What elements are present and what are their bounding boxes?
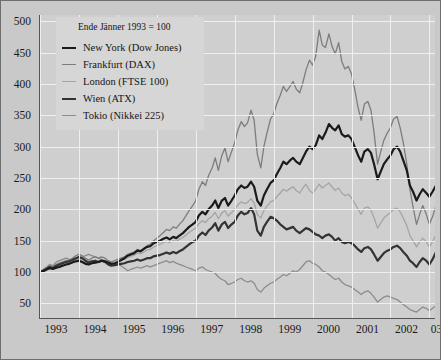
legend-item: New York (Dow Jones) bbox=[62, 39, 198, 56]
x-tick-label: 2001 bbox=[356, 323, 379, 335]
y-tick-label: 200 bbox=[14, 203, 31, 215]
y-gridline bbox=[40, 147, 435, 148]
legend: Ende Jänner 1993 = 100 New York (Dow Jon… bbox=[56, 17, 204, 130]
legend-label: London (FTSE 100) bbox=[83, 76, 168, 87]
legend-label: New York (Dow Jones) bbox=[83, 42, 182, 53]
legend-entries: New York (Dow Jones)Frankfurt (DAX)Londo… bbox=[62, 39, 198, 124]
legend-swatch-icon bbox=[62, 81, 76, 82]
y-gridline bbox=[40, 178, 435, 179]
legend-item: Wien (ATX) bbox=[62, 90, 198, 107]
x-tick-label: 2000 bbox=[317, 323, 340, 335]
legend-label: Frankfurt (DAX) bbox=[83, 59, 155, 70]
y-tick-label: 500 bbox=[14, 15, 31, 27]
legend-swatch-icon bbox=[62, 98, 76, 100]
x-tick-label: 2002 bbox=[395, 323, 418, 335]
legend-swatch-icon bbox=[62, 47, 76, 49]
x-tick-label: 03 bbox=[431, 323, 441, 335]
x-tick-label: 1998 bbox=[239, 323, 262, 335]
y-tick-label: 450 bbox=[14, 47, 31, 59]
x-tick-label: 1996 bbox=[161, 323, 184, 335]
x-tick-label: 1995 bbox=[122, 323, 145, 335]
y-gridline bbox=[40, 241, 435, 242]
y-tick-label: 400 bbox=[14, 78, 31, 90]
x-tick-label: 1999 bbox=[278, 323, 301, 335]
y-tick-label: 50 bbox=[20, 297, 32, 309]
y-tick-label: 350 bbox=[14, 109, 31, 121]
legend-swatch-icon bbox=[62, 115, 76, 116]
x-tick-label: 1997 bbox=[200, 323, 223, 335]
y-tick-label: 100 bbox=[14, 266, 31, 278]
y-axis-labels: 50100150200250300350400450500 bbox=[1, 15, 35, 319]
y-gridline bbox=[40, 209, 435, 210]
x-tick-label: 1994 bbox=[83, 323, 106, 335]
y-tick-label: 300 bbox=[14, 141, 31, 153]
legend-label: Tokio (Nikkei 225) bbox=[83, 110, 164, 121]
y-gridline bbox=[40, 303, 435, 304]
y-tick-label: 250 bbox=[14, 172, 31, 184]
legend-item: Frankfurt (DAX) bbox=[62, 56, 198, 73]
y-tick-label: 150 bbox=[14, 235, 31, 247]
x-tick-label: 1993 bbox=[45, 323, 68, 335]
legend-item: Tokio (Nikkei 225) bbox=[62, 107, 198, 124]
legend-label: Wien (ATX) bbox=[83, 93, 135, 104]
legend-item: London (FTSE 100) bbox=[62, 73, 198, 90]
x-axis-labels: 1993199419951996199719981999200020012002… bbox=[39, 323, 435, 345]
chart-image: 50100150200250300350400450500 1993199419… bbox=[0, 0, 441, 360]
legend-swatch-icon bbox=[62, 64, 76, 65]
y-gridline bbox=[40, 272, 435, 273]
legend-note: Ende Jänner 1993 = 100 bbox=[78, 22, 198, 32]
